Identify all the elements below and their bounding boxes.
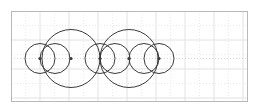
dot-small-mid [98,57,101,60]
dot-large-right [127,57,130,60]
dot-small-left [38,57,41,60]
geometry-diagram-svg [0,0,257,109]
dot-large-left [69,57,72,60]
dot-small-right [157,57,160,60]
figure-container [0,0,257,109]
